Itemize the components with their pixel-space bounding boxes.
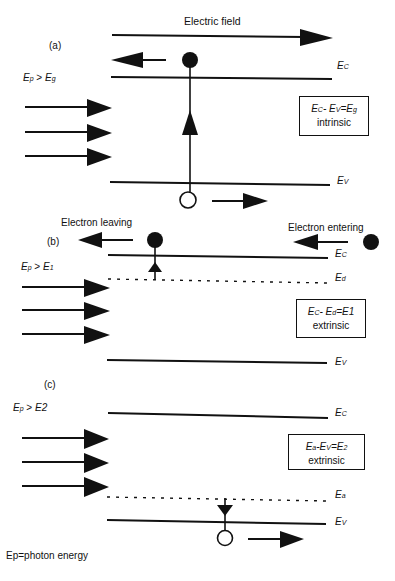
- type-label-c: extrinsic: [289, 454, 364, 468]
- eq-a-term3-sub: g: [353, 106, 357, 113]
- level-ec-a: EC: [337, 61, 349, 71]
- eq-b-term3: =E1: [336, 306, 354, 317]
- level-ea-c-main: E: [335, 489, 342, 500]
- panel-a-label: (a): [49, 41, 61, 51]
- level-ea-c: Ea: [335, 490, 346, 500]
- type-label-b: extrinsic: [297, 319, 365, 333]
- condition-b-rhs: E: [43, 261, 50, 272]
- level-ev-c: EV: [335, 517, 346, 527]
- level-ec-b-main: E: [335, 248, 342, 259]
- valence-band-a: [110, 182, 330, 185]
- level-ev-c-sub: V: [342, 519, 347, 526]
- level-ed-b-main: E: [335, 272, 342, 283]
- equation-b: EC- Ed=E1: [297, 305, 365, 319]
- eq-a-term1: E: [311, 103, 318, 114]
- level-ev-a-main: E: [337, 175, 344, 186]
- eq-c-term2: -E: [316, 441, 326, 452]
- acceptor-level: [107, 497, 327, 501]
- level-ec-c: EC: [335, 408, 347, 418]
- valence-band-c: [107, 520, 326, 524]
- photon-arrows-a: [25, 99, 112, 166]
- electron-b: [147, 232, 163, 248]
- condition-c-lhs: E: [13, 402, 20, 413]
- hole-a: [180, 192, 196, 208]
- hole-drift-arrow-a: [212, 193, 268, 209]
- footnote-photon-energy: Ep=photon energy: [6, 551, 88, 561]
- level-ec-b: EC: [335, 249, 347, 259]
- conduction-band-a: [111, 77, 332, 79]
- photon-arrows-b: [22, 279, 110, 344]
- level-ec-c-main: E: [335, 407, 342, 418]
- condition-c-rhs: E2: [35, 402, 47, 413]
- equation-box-c: Ea-EV=E2 extrinsic: [288, 434, 365, 470]
- capture-arrow-c: [217, 498, 233, 535]
- valence-band-b: [107, 360, 327, 363]
- level-ea-c-sub: a: [342, 492, 346, 499]
- equation-a: EC- EV=Eg: [300, 102, 368, 116]
- electron-entering-label: Electron entering: [288, 223, 364, 233]
- electron-leaving-arrow: [78, 232, 133, 248]
- level-ed-b-sub: d: [342, 275, 346, 282]
- level-ev-a: EV: [337, 176, 348, 186]
- hole-drift-arrow-c: [248, 531, 304, 548]
- level-ev-b-sub: V: [342, 359, 347, 366]
- eq-a-term3: =E: [340, 103, 353, 114]
- electron-a: [182, 52, 198, 68]
- excitation-arrow-b: [148, 246, 162, 280]
- equation-box-b: EC- Ed=E1 extrinsic: [296, 299, 366, 338]
- level-ec-c-sub: C: [342, 410, 347, 417]
- condition-b-lhs: E: [21, 261, 28, 272]
- eq-b-term2: - E: [319, 306, 332, 317]
- condition-b-rhs-sub: 1: [50, 264, 54, 271]
- electron-drift-arrow-a: [111, 52, 166, 68]
- condition-a-rhs: E: [45, 72, 52, 83]
- level-ev-c-main: E: [335, 516, 342, 527]
- condition-a: Ep > Eg: [23, 73, 56, 83]
- hole-c: [218, 531, 233, 546]
- eq-c-term3: =E: [331, 441, 344, 452]
- panel-c-label: (c): [44, 380, 56, 390]
- equation-box-a: EC- EV=Eg intrinsic: [299, 96, 369, 136]
- condition-a-op: >: [34, 72, 45, 83]
- electric-field-label: Electric field: [184, 16, 241, 27]
- conduction-band-b: [108, 255, 328, 258]
- electric-field-arrow: [112, 29, 333, 46]
- condition-c-op: >: [24, 402, 35, 413]
- condition-a-lhs: E: [23, 72, 30, 83]
- level-ev-b-main: E: [335, 356, 342, 367]
- condition-a-rhs-sub: g: [52, 75, 56, 82]
- level-ev-b: EV: [335, 357, 346, 367]
- level-ec-b-sub: C: [342, 251, 347, 258]
- donor-level: [108, 279, 328, 283]
- eq-a-term2: - E: [323, 103, 336, 114]
- electron-leaving-label: Electron leaving: [61, 218, 132, 228]
- panel-b-label: (b): [47, 237, 59, 247]
- condition-c: Ep > E2: [13, 403, 47, 413]
- type-label-a: intrinsic: [300, 116, 368, 130]
- level-ed-b: Ed: [335, 273, 346, 283]
- level-ec-a-main: E: [337, 60, 344, 71]
- photon-arrows-c: [22, 429, 109, 497]
- condition-b-op: >: [32, 261, 43, 272]
- conduction-band-c: [108, 413, 328, 418]
- level-ev-a-sub: V: [344, 178, 349, 185]
- condition-b: Ep > E1: [21, 262, 54, 272]
- electron-entering: [363, 234, 379, 250]
- equation-c: Ea-EV=E2: [289, 440, 364, 454]
- excitation-arrow-a: [182, 66, 198, 195]
- eq-c-term3-sub: 2: [343, 444, 347, 451]
- level-ec-a-sub: C: [344, 63, 349, 70]
